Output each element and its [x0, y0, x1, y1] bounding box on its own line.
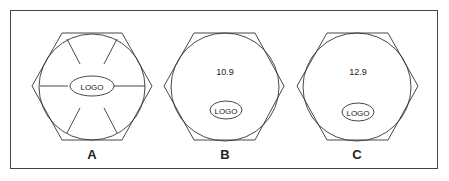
hexagon-b: [164, 33, 284, 140]
bolt-head-diagram: LOGO A 10.9 LOGO B 12.9 LOGO C: [0, 0, 449, 181]
logo-text-c: LOGO: [346, 109, 369, 118]
logo-text-a: LOGO: [80, 83, 103, 92]
frame-border: [11, 11, 438, 169]
grade-marking-b: 10.9: [216, 67, 234, 77]
circle-c: [303, 33, 411, 141]
bolt-head-b: [164, 33, 284, 141]
grade-marking-c: 12.9: [349, 67, 367, 77]
logo-text-b: LOGO: [214, 107, 237, 116]
figure-label-b: B: [220, 147, 229, 162]
hexagon-c: [297, 33, 418, 140]
figure-label-c: C: [352, 147, 362, 162]
bolt-head-c: [297, 33, 418, 141]
figure-label-a: A: [87, 147, 97, 162]
